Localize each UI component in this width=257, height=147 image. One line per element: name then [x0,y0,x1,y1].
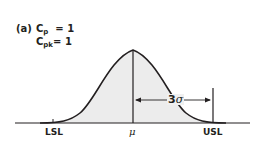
three-sigma-label: 3σ [167,94,184,105]
cp-label: Cp = 1 [36,24,74,34]
cpk-value: = 1 [53,36,72,47]
arrowhead-right-icon [205,98,211,103]
sigma-coefficient: 3 [168,93,176,106]
cp-value: = 1 [55,23,74,34]
panel-label: (a) [16,24,32,34]
mean-label: μ [129,127,136,137]
sigma-symbol: σ [176,93,184,106]
lsl-label: LSL [45,128,63,137]
cpk-subscript: pk [43,41,53,49]
cp-subscript: p [43,28,48,36]
cpk-label: Cpk= 1 [36,37,72,47]
process-capability-figure: (a) Cp = 1 Cpk= 1 LSL μ USL 3σ [0,0,257,147]
usl-label: USL [203,128,223,137]
